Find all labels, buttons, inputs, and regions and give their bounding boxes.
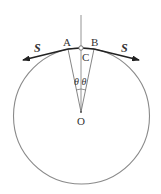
label-b: B	[91, 36, 98, 48]
tension-diagram: A B C O θ θ S S	[0, 0, 161, 194]
label-theta-left: θ	[74, 76, 79, 87]
label-o: O	[77, 115, 85, 127]
label-a: A	[63, 36, 71, 48]
point-c-marker	[79, 46, 83, 50]
label-force-left: S	[34, 41, 41, 55]
label-c: C	[82, 51, 89, 63]
point-o-marker	[80, 111, 82, 113]
label-force-right: S	[121, 41, 128, 55]
label-theta-right: θ	[82, 76, 87, 87]
force-arrow-right	[94, 49, 139, 60]
